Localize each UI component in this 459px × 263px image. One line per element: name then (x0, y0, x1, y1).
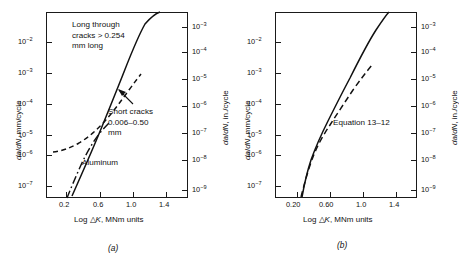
curve-aluminum-a (67, 121, 111, 198)
panel-b: 10−2 10−3 10−4 10−5 10−6 10−7 10−3 10−4 … (229, 0, 458, 263)
curves-a (0, 0, 229, 263)
curve-data-b (302, 12, 389, 197)
panel-a: 10−2 10−3 10−4 10−5 10−6 10−7 10−3 10−4 … (0, 0, 229, 263)
curve-long-cracks-a (72, 12, 160, 196)
curves-b (229, 0, 458, 263)
curve-equation-b (301, 65, 372, 197)
